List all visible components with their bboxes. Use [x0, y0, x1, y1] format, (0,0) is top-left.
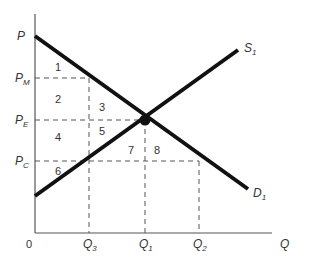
demand-label: D1	[253, 186, 266, 202]
supply-demand-diagram: P PM PE PC 0 Q3 Q1 Q2 Q S1 D1 1 2 3 4 5 …	[0, 0, 309, 262]
region-4: 4	[55, 131, 61, 143]
region-7: 7	[128, 144, 134, 156]
q2-label: Q2	[193, 237, 207, 253]
region-6: 6	[55, 165, 61, 177]
q3-label: Q3	[83, 237, 97, 253]
region-2: 2	[55, 93, 61, 105]
q1-label: Q1	[139, 237, 153, 253]
region-3: 3	[99, 101, 105, 113]
supply-label: S1	[244, 41, 256, 57]
pe-label: PE	[15, 113, 29, 129]
origin-label: 0	[26, 238, 32, 250]
pc-label: PC	[15, 154, 29, 170]
region-8: 8	[154, 144, 160, 156]
demand-curve	[35, 36, 248, 189]
region-5: 5	[99, 125, 105, 137]
y-axis-label: P	[17, 29, 25, 43]
pm-label: PM	[15, 71, 30, 87]
x-axis-label: Q	[280, 237, 289, 251]
equilibrium-point	[140, 115, 151, 126]
region-1: 1	[55, 61, 61, 73]
supply-curve	[35, 50, 238, 196]
